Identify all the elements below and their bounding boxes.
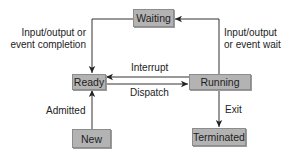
label-io-wait-line1: Input/output — [224, 27, 281, 39]
state-ready-label: Ready — [74, 76, 104, 88]
state-running: Running — [189, 74, 251, 90]
label-dispatch-text: Dispatch — [130, 87, 169, 98]
label-exit: Exit — [225, 104, 242, 116]
arrow-io-completion — [92, 19, 133, 73]
state-terminated-label: Terminated — [193, 131, 245, 143]
label-interrupt: Interrupt — [131, 62, 168, 74]
label-exit-text: Exit — [225, 104, 242, 115]
label-admitted-text: Admitted — [46, 105, 85, 116]
label-io-completion: Input/output or event completion — [6, 27, 86, 51]
label-admitted: Admitted — [46, 105, 85, 117]
state-new-label: New — [81, 133, 102, 145]
state-waiting-label: Waiting — [136, 12, 171, 24]
state-ready: Ready — [72, 74, 106, 90]
label-dispatch: Dispatch — [130, 87, 169, 99]
label-io-wait-line2: or event wait — [224, 39, 281, 51]
label-io-wait: Input/output or event wait — [224, 27, 281, 51]
label-io-completion-line1: Input/output or — [6, 27, 86, 39]
state-running-label: Running — [200, 76, 239, 88]
arrow-io-wait — [175, 19, 219, 74]
process-state-diagram: Waiting Ready Running New Terminated Inp… — [0, 0, 292, 160]
state-terminated: Terminated — [192, 128, 246, 146]
state-new: New — [72, 129, 111, 148]
label-io-completion-line2: event completion — [6, 39, 86, 51]
state-waiting: Waiting — [133, 9, 174, 27]
label-interrupt-text: Interrupt — [131, 62, 168, 73]
